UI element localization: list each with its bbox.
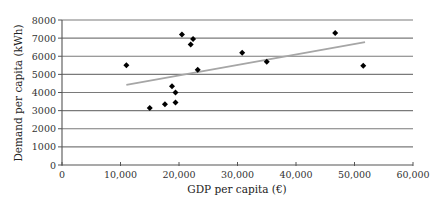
data-point-marker [190, 36, 196, 42]
x-tick-label: 40,000 [279, 169, 312, 180]
x-axis-title: GDP per capita (€) [187, 183, 286, 195]
data-point-marker [360, 63, 366, 69]
y-tick-label: 1000 [32, 141, 56, 152]
x-tick-label: 10,000 [104, 169, 137, 180]
y-tick-label: 8000 [32, 15, 56, 26]
y-axis-title: Demand per capita (kWh) [12, 24, 24, 161]
x-tick-label: 20,000 [162, 169, 195, 180]
gridlines [62, 20, 413, 147]
x-tick-label: 50,000 [338, 169, 371, 180]
data-point-marker [123, 62, 129, 68]
scatter-chart: 010002000300040005000600070008000 010,00… [0, 0, 445, 208]
y-axis-ticks: 010002000300040005000600070008000 [32, 15, 62, 171]
y-tick-label: 3000 [32, 105, 56, 116]
data-points [123, 30, 366, 111]
data-point-marker [332, 30, 338, 36]
data-point-marker [169, 83, 175, 89]
trendline-line [126, 42, 365, 85]
data-point-marker [147, 105, 153, 111]
data-point-marker [239, 50, 245, 56]
data-point-marker [172, 90, 178, 96]
y-tick-label: 2000 [32, 123, 56, 134]
data-point-marker [179, 32, 185, 38]
trendline [126, 42, 365, 85]
data-point-marker [172, 99, 178, 105]
y-tick-label: 6000 [32, 51, 56, 62]
y-tick-label: 7000 [32, 33, 56, 44]
x-tick-label: 30,000 [221, 169, 254, 180]
x-tick-label: 0 [59, 169, 65, 180]
data-point-marker [188, 41, 194, 47]
y-tick-label: 4000 [32, 87, 56, 98]
y-tick-label: 0 [50, 160, 56, 171]
y-tick-label: 5000 [32, 69, 56, 80]
data-point-marker [162, 101, 168, 107]
x-tick-label: 60,000 [396, 169, 429, 180]
